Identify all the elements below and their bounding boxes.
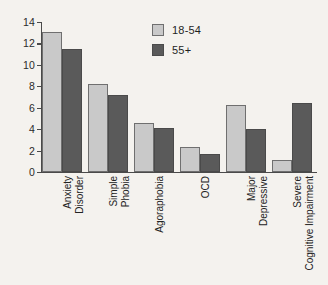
y-tick-mark	[37, 172, 41, 173]
bar	[292, 103, 312, 172]
x-axis-label-line: OCD	[200, 176, 212, 198]
bar-chart: 02468101214 AnxietyDisorderSimplePhobiaA…	[0, 0, 328, 285]
x-axis-label-line: Agoraphobia	[154, 176, 166, 233]
x-axis-label-line: Severe	[292, 176, 304, 208]
x-axis-line	[41, 172, 317, 173]
y-tick-label: 8	[29, 80, 35, 92]
bar	[246, 129, 266, 172]
bar	[154, 128, 174, 172]
x-axis-label-line: Disorder	[74, 176, 86, 214]
x-axis-labels: AnxietyDisorderSimplePhobiaAgoraphobiaOC…	[41, 176, 317, 284]
y-tick-label: 12	[23, 37, 35, 49]
bar	[42, 32, 62, 172]
legend-label: 55+	[172, 44, 191, 56]
x-axis-label-line: Major	[246, 176, 258, 201]
legend-label: 18-54	[172, 24, 201, 36]
y-tick-label: 4	[29, 123, 35, 135]
bar	[200, 154, 220, 172]
bar	[180, 147, 200, 172]
bar	[108, 95, 128, 172]
x-axis-label-line: Simple	[108, 176, 120, 207]
bar-group	[42, 22, 82, 172]
x-axis-label-line: Depressive	[258, 176, 270, 226]
y-tick-label: 10	[23, 59, 35, 71]
bar	[272, 160, 292, 172]
x-axis-label-line: Anxiety	[62, 176, 74, 209]
y-tick-label: 14	[23, 16, 35, 28]
bar	[88, 84, 108, 172]
chart-legend: 18-5455+	[152, 22, 201, 62]
bar	[226, 105, 246, 173]
y-tick-label: 2	[29, 145, 35, 157]
legend-item[interactable]: 18-54	[152, 22, 201, 38]
bar-group	[88, 22, 128, 172]
legend-swatch-icon	[152, 24, 164, 36]
y-tick-label: 6	[29, 102, 35, 114]
y-tick-label: 0	[29, 166, 35, 178]
legend-item[interactable]: 55+	[152, 42, 201, 58]
x-axis-label-line: Cognitive Impairment	[304, 176, 316, 270]
x-axis-label-line: Phobia	[120, 176, 132, 207]
bar-group	[226, 22, 266, 172]
bar	[134, 123, 154, 172]
bar	[62, 49, 82, 172]
bar-group	[272, 22, 312, 172]
legend-swatch-icon	[152, 44, 164, 56]
